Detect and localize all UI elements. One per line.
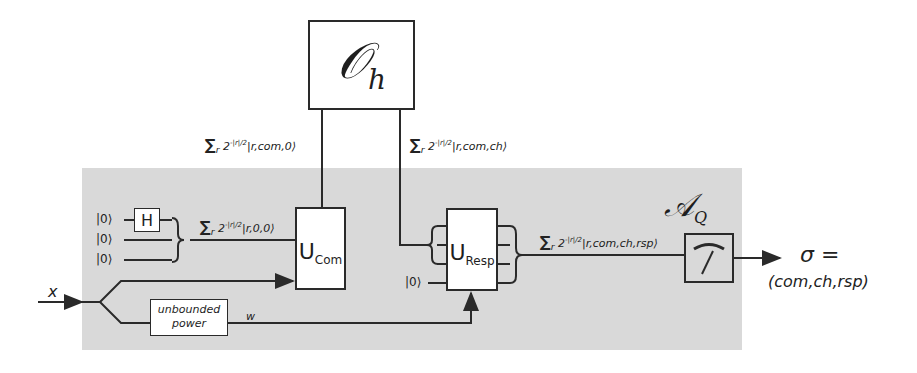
qubit-input-2: |0⟩ (96, 232, 112, 246)
oracle-label: 𝒪h (310, 32, 413, 96)
state-from-oracle: ∑r 2-|r|/2|r,com,ch⟩ (410, 136, 507, 155)
u-resp-gate: UResp (446, 208, 498, 291)
state-after-h: ∑r 2-|r|/2|r,0,0⟩ (200, 218, 275, 237)
adversary-label: 𝒜Q (664, 186, 707, 227)
wire-w-to-resp (228, 293, 471, 323)
hadamard-gate: H (134, 208, 160, 232)
brace-init (172, 218, 184, 262)
w-label: w (246, 310, 255, 323)
resp-ancilla-input: |0⟩ (405, 275, 421, 289)
oracle-box: 𝒪h (308, 20, 415, 110)
u-com-label: UCom (297, 239, 344, 267)
qubit-input-1: |0⟩ (96, 212, 112, 226)
u-resp-label: UResp (448, 240, 496, 268)
output-sigma: σ = (800, 242, 839, 267)
protocol-diagram: 𝒪h ∑r 2-|r|/2|r,com,0⟩ ∑r 2-|r|/2|r,com,… (0, 0, 917, 373)
state-after-resp: ∑r 2-|r|/2|r,com,ch,rsp⟩ (540, 233, 658, 252)
output-tuple: (com,ch,rsp) (768, 272, 869, 291)
wires-layer (0, 0, 917, 373)
state-to-oracle: ∑r 2-|r|/2|r,com,0⟩ (205, 136, 296, 155)
wire-x-to-power (100, 302, 150, 323)
input-x-label: x (48, 282, 57, 301)
brace-resp-in (427, 226, 438, 264)
brace-resp-out (510, 226, 522, 283)
qubit-input-3: |0⟩ (96, 252, 112, 266)
measurement-box (684, 233, 734, 283)
u-com-gate: UCom (295, 207, 346, 290)
unbounded-power-box: unbounded power (150, 299, 228, 336)
wire-oracle-to-resp (400, 110, 431, 245)
